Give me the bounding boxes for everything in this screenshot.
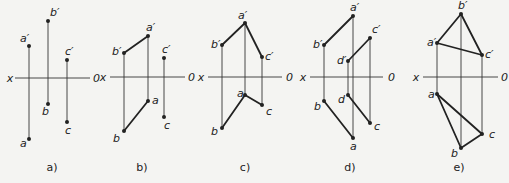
point-label: c′ bbox=[65, 45, 74, 58]
panel-e: x0b′a′c′acbe) bbox=[412, 0, 508, 174]
point-marker bbox=[220, 126, 224, 130]
point-label: b bbox=[211, 125, 218, 138]
point-label: c bbox=[489, 128, 495, 141]
point-label: c bbox=[65, 124, 71, 137]
point-label: a′ bbox=[20, 32, 30, 45]
axis-label-origin: 0 bbox=[388, 71, 395, 84]
axis-label-origin: 0 bbox=[286, 71, 293, 84]
point-label: c′ bbox=[372, 23, 381, 36]
panel-b: x0a′b′c′acbb) bbox=[99, 21, 195, 174]
point-marker bbox=[65, 58, 69, 62]
point-label: a bbox=[20, 137, 27, 150]
point-label: c′ bbox=[162, 43, 171, 56]
axis-label-x: x bbox=[412, 71, 420, 84]
axis-label-x: x bbox=[299, 71, 307, 84]
point-marker bbox=[346, 93, 350, 97]
segment-line bbox=[245, 23, 262, 57]
segment-line bbox=[437, 43, 482, 55]
point-label: b bbox=[113, 132, 120, 145]
point-marker bbox=[435, 92, 439, 96]
segment-line bbox=[124, 101, 148, 131]
point-label: b bbox=[42, 105, 49, 118]
segment-line bbox=[437, 94, 461, 148]
panel-d: x0a′b′c′d′dbcad) bbox=[299, 1, 395, 174]
point-marker bbox=[351, 14, 355, 18]
point-marker bbox=[459, 146, 463, 150]
point-label: b bbox=[314, 100, 321, 113]
point-marker bbox=[322, 43, 326, 47]
point-marker bbox=[146, 99, 150, 103]
panel-caption: c) bbox=[240, 161, 250, 174]
point-label: c bbox=[374, 120, 380, 133]
axis-label-x: x bbox=[6, 72, 14, 85]
point-marker bbox=[368, 36, 372, 40]
segment-line bbox=[324, 101, 353, 138]
point-marker bbox=[480, 53, 484, 57]
axis-label-x: x bbox=[197, 71, 205, 84]
point-marker bbox=[459, 12, 463, 16]
point-marker bbox=[146, 34, 150, 38]
point-marker bbox=[322, 99, 326, 103]
panel-caption: d) bbox=[344, 161, 355, 174]
point-label: a bbox=[237, 87, 244, 100]
point-label: b′ bbox=[50, 6, 60, 19]
axis-label-x: x bbox=[99, 71, 107, 84]
point-label: c′ bbox=[265, 50, 274, 63]
point-label: a bbox=[152, 94, 159, 107]
panel-caption: e) bbox=[453, 161, 464, 174]
panel-c: x0a′b′c′acbc) bbox=[197, 9, 293, 174]
panel-caption: a) bbox=[46, 161, 57, 174]
point-label: a′ bbox=[350, 1, 360, 14]
point-label: a′ bbox=[238, 9, 248, 22]
point-marker bbox=[368, 121, 372, 125]
point-marker bbox=[260, 55, 264, 59]
point-label: d bbox=[338, 93, 346, 106]
point-label: a′ bbox=[146, 21, 156, 34]
point-label: b′ bbox=[211, 38, 221, 51]
segment-line bbox=[437, 14, 461, 43]
point-label: b′ bbox=[458, 0, 468, 12]
point-label: c′ bbox=[485, 48, 494, 61]
point-label: c bbox=[266, 105, 272, 118]
point-marker bbox=[480, 132, 484, 136]
segment-line bbox=[348, 95, 370, 123]
segment-line bbox=[245, 95, 262, 105]
point-label: a′ bbox=[427, 36, 437, 49]
axis-label-origin: 0 bbox=[501, 71, 508, 84]
point-marker bbox=[220, 43, 224, 47]
point-marker bbox=[122, 51, 126, 55]
point-label: b′ bbox=[313, 38, 323, 51]
segment-line bbox=[461, 134, 482, 148]
segment-line bbox=[348, 38, 370, 61]
point-label: b bbox=[451, 147, 458, 160]
segment-line bbox=[124, 36, 148, 53]
segment-line bbox=[437, 94, 482, 134]
point-label: a bbox=[350, 140, 357, 153]
panel-a: x0a′b′c′bcaa) bbox=[6, 6, 100, 174]
point-marker bbox=[260, 103, 264, 107]
point-marker bbox=[122, 129, 126, 133]
point-label: b′ bbox=[112, 45, 122, 58]
panel-caption: b) bbox=[136, 161, 147, 174]
point-marker bbox=[46, 19, 50, 23]
point-marker bbox=[27, 137, 31, 141]
point-marker bbox=[346, 59, 350, 63]
point-marker bbox=[162, 56, 166, 60]
segment-line bbox=[222, 23, 245, 45]
projection-diagram: x0a′b′c′bcaa)x0a′b′c′acbb)x0a′b′c′acbc)x… bbox=[0, 0, 509, 183]
axis-label-origin: 0 bbox=[188, 71, 195, 84]
segment-line bbox=[324, 16, 353, 45]
point-label: d′ bbox=[337, 54, 347, 67]
point-label: a bbox=[428, 88, 435, 101]
point-label: c bbox=[164, 119, 170, 132]
segment-line bbox=[461, 14, 482, 55]
